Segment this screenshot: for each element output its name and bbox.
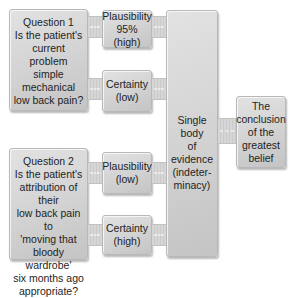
question-1-text: Is the patient's current problem simple … xyxy=(13,29,84,107)
connector-c2-evidence xyxy=(152,224,166,246)
connector-p2-evidence xyxy=(152,162,166,184)
connector-q1-plausibility xyxy=(88,16,102,38)
connector-c1-evidence xyxy=(152,78,166,100)
connector-q2-plausibility xyxy=(88,162,102,184)
q2-plausibility-label: Plausibility (low) xyxy=(102,160,152,186)
connector-q2-certainty xyxy=(88,224,102,246)
conclusion-box: The conclusion of the greatest belief xyxy=(236,96,286,168)
q1-plausibility-box: Plausibility 95% (high) xyxy=(102,10,152,48)
conclusion-label: The conclusion of the greatest belief xyxy=(236,100,286,165)
q1-certainty-label: Certainty (low) xyxy=(106,78,148,104)
evidence-label: Single body of evidence (indeter- minacy… xyxy=(170,114,214,192)
q1-plausibility-label: Plausibility 95% (high) xyxy=(102,10,152,49)
question-1-box: Question 1 Is the patient's current prob… xyxy=(9,9,88,111)
question-2-box: Question 2 Is the patient's attribution … xyxy=(9,148,88,260)
connector-p1-evidence xyxy=(152,16,166,38)
connector-q1-certainty xyxy=(88,78,102,100)
q2-certainty-label: Certainty (high) xyxy=(106,222,148,248)
question-1-title: Question 1 xyxy=(23,16,74,29)
connector-evidence-conclusion xyxy=(218,118,236,144)
question-2-text: Is the patient's attribution of their lo… xyxy=(13,168,84,298)
q1-certainty-box: Certainty (low) xyxy=(102,70,152,112)
q2-certainty-box: Certainty (high) xyxy=(102,215,152,255)
question-2-title: Question 2 xyxy=(23,155,74,168)
q2-plausibility-box: Plausibility (low) xyxy=(102,152,152,194)
evidence-box: Single body of evidence (indeter- minacy… xyxy=(166,10,218,257)
